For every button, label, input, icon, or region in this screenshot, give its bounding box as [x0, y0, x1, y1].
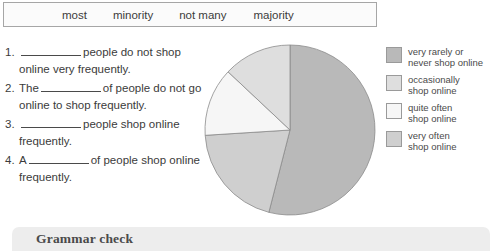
legend-item-very-often: very often shop online [386, 130, 494, 152]
legend-label-very-rarely: very rarely or never shop online [408, 46, 483, 68]
legend-label-quite-often: quite often shop online [408, 102, 457, 124]
word-bank-item-majority[interactable]: majority [254, 9, 294, 21]
answer-blank-2[interactable] [41, 80, 101, 92]
legend-swatch-very-rarely [386, 47, 402, 63]
word-bank: most minority not many majority [3, 2, 377, 27]
question-number: 4. [5, 152, 19, 186]
legend-label-occasionally: occasionally shop online [408, 74, 460, 96]
answer-blank-4[interactable] [29, 152, 89, 164]
question-item-2: 2. Theof people do not go online to shop… [5, 80, 210, 114]
legend-label-very-often: very often shop online [408, 130, 457, 152]
question-list: 1. people do not shop online very freque… [5, 44, 210, 188]
legend-item-quite-often: quite often shop online [386, 102, 494, 124]
pie-chart [204, 44, 376, 216]
grammar-check-section: Grammar check [12, 227, 490, 251]
pie-slice-group [205, 45, 375, 215]
chart-legend: very rarely or never shop online occasio… [386, 46, 494, 158]
word-bank-item-not-many[interactable]: not many [179, 9, 226, 21]
question-text: people do not shop online very frequentl… [19, 44, 210, 78]
legend-swatch-quite-often [386, 103, 402, 119]
legend-item-occasionally: occasionally shop online [386, 74, 494, 96]
word-bank-item-most[interactable]: most [62, 9, 87, 21]
question-item-4: 4. Aof people shop online frequently. [5, 152, 210, 186]
answer-blank-3[interactable] [21, 116, 81, 128]
question-item-1: 1. people do not shop online very freque… [5, 44, 210, 78]
pie-chart-svg [204, 44, 376, 216]
question-text: Aof people shop online frequently. [19, 152, 210, 186]
word-bank-item-minority[interactable]: minority [113, 9, 153, 21]
question-number: 3. [5, 116, 19, 150]
question-number: 1. [5, 44, 19, 78]
legend-swatch-very-often [386, 131, 402, 147]
question-text-before: The [19, 82, 39, 94]
question-number: 2. [5, 80, 19, 114]
worksheet-page: most minority not many majority 1. peopl… [0, 0, 498, 251]
question-item-3: 3. people shop online frequently. [5, 116, 210, 150]
question-text-before: A [19, 154, 27, 166]
answer-blank-1[interactable] [21, 44, 81, 56]
question-text: Theof people do not go online to shop fr… [19, 80, 210, 114]
grammar-check-title: Grammar check [36, 231, 133, 247]
question-text: people shop online frequently. [19, 116, 210, 150]
legend-swatch-occasionally [386, 75, 402, 91]
legend-item-very-rarely: very rarely or never shop online [386, 46, 494, 68]
